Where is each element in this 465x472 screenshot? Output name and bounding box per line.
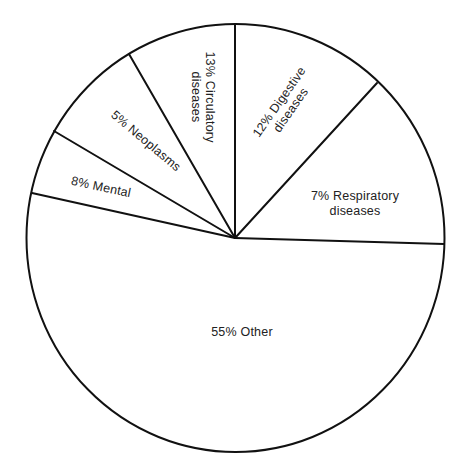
label-circulatory-line2: diseases — [189, 72, 203, 123]
label-respiratory-line1: 7% Respiratory — [311, 189, 400, 203]
pie-chart: 13% Circulatory diseases 12% Digestive d… — [0, 0, 465, 472]
label-respiratory-line2: diseases — [330, 204, 381, 218]
label-circulatory-line1: 13% Circulatory — [203, 51, 217, 143]
label-other: 55% Other — [211, 325, 273, 339]
